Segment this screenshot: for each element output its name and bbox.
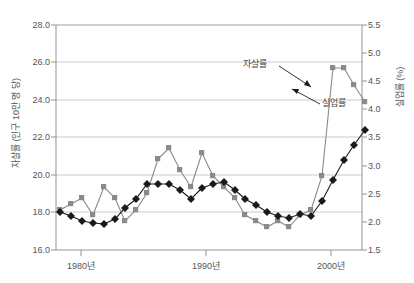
xtick-1990: 1990년 — [176, 262, 236, 271]
xtick-2000: 2000년 — [301, 262, 361, 271]
x-axis-tick-labels: 1980년 1990년 2000년 — [0, 0, 414, 283]
annotation-suicide-rate: 자살률 — [243, 59, 267, 69]
xtick-1980: 1980년 — [51, 262, 111, 271]
suicide-unemployment-chart: 자살률 (인구 10만 명 당) 실업률 (%) — [0, 0, 414, 283]
annotation-unemployment-rate: 실업률 — [322, 98, 346, 108]
